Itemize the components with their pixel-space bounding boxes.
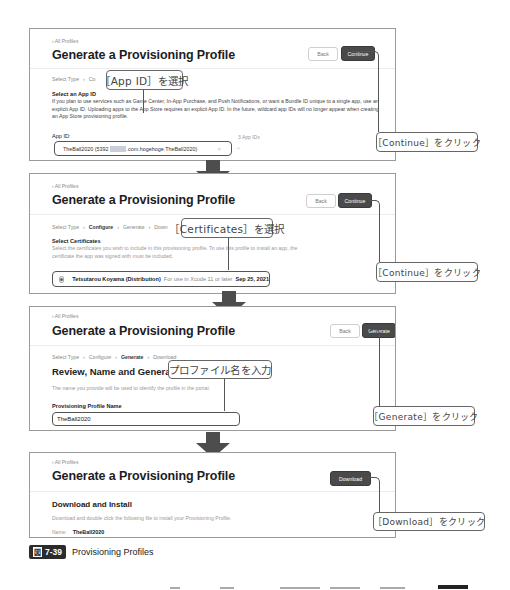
figure-number: 7-39 [45, 547, 62, 557]
divider [30, 491, 395, 492]
name-value: TheBall2020 [73, 529, 104, 535]
figure-kanji: 図 [33, 547, 42, 557]
step-download: Down [154, 224, 167, 230]
all-profiles-link[interactable]: ‹ All Profiles [52, 38, 78, 44]
callout-select-app-id: ［App ID］を選択 [106, 70, 183, 90]
callout-select-certificates: ［Certificates］を選択 [181, 218, 273, 238]
section-heading: Select Certificates [52, 238, 101, 244]
app-id-value-suffix: .com.hogehoge.TheBall2020) [127, 146, 198, 152]
page-title: Generate a Provisioning Profile [52, 324, 235, 338]
name-label: Name: [52, 529, 67, 535]
callout-leader [370, 200, 380, 262]
callout-click-generate: ［Generate］をクリック [373, 406, 475, 426]
step-breadcrumb: Select Type›Configure›Generate›Download [52, 354, 176, 360]
profile-name-input[interactable]: TheBall2020 [52, 412, 240, 426]
callout-leader [224, 379, 225, 411]
step-configure: Configure [89, 224, 114, 230]
callout-click-continue: ［Continue］をクリック [376, 132, 478, 152]
figure-badge: 図 7-39 [29, 545, 66, 559]
profile-name-row: Name:TheBall2020 [52, 529, 104, 535]
app-id-value-prefix: TheBall2020 (5392 [63, 146, 109, 152]
callout-leader [143, 90, 144, 113]
app-id-label: App ID: [52, 133, 71, 139]
section-heading: Review, Name and Generate. [52, 366, 182, 377]
step-configure: Configure [89, 354, 112, 360]
all-profiles-link[interactable]: ‹ All Profiles [52, 459, 78, 465]
callout-leader [368, 477, 380, 515]
back-button[interactable]: Back [330, 324, 360, 338]
section-description: The name you provide will be used to ide… [52, 385, 382, 393]
continue-button[interactable]: Continue [338, 193, 372, 208]
section-heading: Select an App ID [52, 91, 96, 97]
section-heading: Download and Install [52, 500, 132, 509]
step-generate: Generate [121, 354, 144, 360]
cropped-text-fragments [170, 584, 490, 590]
chevron-down-icon[interactable]: ⌄ [236, 143, 241, 150]
callout-click-continue: ［Continue］をクリック [376, 262, 478, 282]
all-profiles-link[interactable]: ‹ All Profiles [52, 183, 78, 189]
certificate-expiry: Sep 25, 2021 [235, 276, 269, 282]
panel-download-install: ‹ All Profiles Generate a Provisioning P… [29, 452, 396, 538]
section-description: Select the certificates you wish to incl… [52, 245, 312, 260]
divider [30, 68, 395, 69]
page-title: Generate a Provisioning Profile [52, 48, 235, 62]
section-description: Download and double click the following … [52, 515, 382, 523]
figure-caption: 図 7-39 Provisioning Profiles [29, 545, 154, 559]
step-select-type: Select Type [52, 354, 79, 360]
divider [30, 214, 395, 215]
callout-click-download: ［Download］をクリック [373, 512, 485, 531]
certificate-note: For use in Xcode 11 or later [164, 276, 233, 282]
divider [30, 345, 395, 346]
download-button[interactable]: Download [330, 471, 371, 486]
page-title: Generate a Provisioning Profile [52, 469, 235, 483]
profile-name-label: Provisioning Profile Name [52, 403, 122, 409]
back-button[interactable]: Back [306, 194, 336, 208]
redacted-team-id [110, 146, 126, 152]
certificate-name: Tetsutarou Koyama (Distribution) [72, 276, 160, 282]
app-id-count: 3 App IDs [238, 134, 260, 140]
callout-leader [370, 329, 380, 407]
certificate-row[interactable]: Tetsutarou Koyama (Distribution) For use… [52, 271, 270, 287]
callout-leader [352, 51, 379, 132]
step-select-type: Select Type [52, 224, 79, 230]
page-title: Generate a Provisioning Profile [52, 193, 235, 207]
clear-icon[interactable]: × [217, 146, 221, 152]
step-configure: Co [89, 76, 96, 82]
panel-select-app-id: ‹ All Profiles Generate a Provisioning P… [29, 28, 396, 161]
step-select-type: Select Type [52, 76, 79, 82]
app-id-select[interactable]: TheBall2020 (5392.com.hogehoge.TheBall20… [54, 141, 232, 156]
step-breadcrumb: Select Type›Configure›Generate›Down [52, 224, 168, 230]
all-profiles-link[interactable]: ‹ All Profiles [52, 313, 78, 319]
back-button[interactable]: Back [308, 47, 338, 61]
caption-text: Provisioning Profiles [72, 547, 154, 557]
callout-leader [228, 238, 229, 270]
callout-enter-profile-name: プロファイル名を入力 [168, 360, 272, 379]
step-generate: Generate [123, 224, 145, 230]
certificate-radio[interactable] [59, 276, 64, 283]
section-description: If you plan to use services such as Game… [52, 98, 382, 121]
